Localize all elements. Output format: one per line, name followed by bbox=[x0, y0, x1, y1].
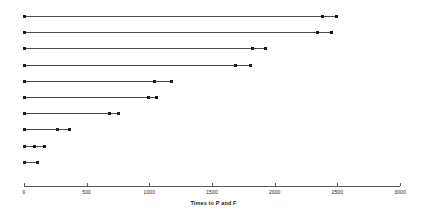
data-point bbox=[23, 80, 26, 83]
x-axis-title: Times to P and F bbox=[0, 200, 427, 206]
x-axis-tick-label: 500 bbox=[82, 189, 91, 195]
row-connector-line bbox=[24, 129, 70, 130]
x-axis-tick bbox=[337, 183, 338, 186]
data-point bbox=[335, 15, 338, 18]
x-axis-tick-label: 1000 bbox=[144, 189, 156, 195]
row-connector-line bbox=[24, 48, 266, 49]
data-point bbox=[321, 15, 324, 18]
data-point bbox=[36, 161, 39, 164]
data-point bbox=[316, 31, 319, 34]
row-connector-line bbox=[24, 32, 331, 33]
row-connector-line bbox=[24, 113, 118, 114]
x-axis-tick bbox=[400, 183, 401, 186]
data-row bbox=[0, 142, 427, 151]
x-axis-tick-label: 0 bbox=[23, 189, 26, 195]
data-point bbox=[147, 96, 150, 99]
x-axis-tick bbox=[275, 183, 276, 186]
data-point bbox=[43, 145, 46, 148]
data-point bbox=[23, 145, 26, 148]
data-row bbox=[0, 28, 427, 37]
data-point bbox=[117, 112, 120, 115]
x-axis-tick bbox=[24, 183, 25, 186]
data-point bbox=[23, 96, 26, 99]
data-row bbox=[0, 44, 427, 53]
data-point bbox=[23, 31, 26, 34]
data-point bbox=[23, 64, 26, 67]
row-connector-line bbox=[24, 81, 171, 82]
x-axis-tick-label: 2500 bbox=[332, 189, 344, 195]
data-point bbox=[170, 80, 173, 83]
data-point bbox=[108, 112, 111, 115]
data-row bbox=[0, 109, 427, 118]
row-connector-line bbox=[24, 16, 336, 17]
data-row bbox=[0, 61, 427, 70]
data-point bbox=[23, 128, 26, 131]
data-row bbox=[0, 12, 427, 21]
row-connector-line bbox=[24, 65, 250, 66]
x-axis-tick-label: 3000 bbox=[394, 189, 406, 195]
x-axis-line bbox=[24, 186, 400, 187]
data-point bbox=[234, 64, 237, 67]
data-point bbox=[251, 47, 254, 50]
data-row bbox=[0, 93, 427, 102]
data-row bbox=[0, 125, 427, 134]
data-point bbox=[33, 145, 36, 148]
data-point bbox=[155, 96, 158, 99]
x-axis-tick-label: 2000 bbox=[269, 189, 281, 195]
x-axis-tick bbox=[87, 183, 88, 186]
data-point bbox=[23, 47, 26, 50]
x-axis-tick-label: 1500 bbox=[206, 189, 218, 195]
data-point bbox=[264, 47, 267, 50]
data-point bbox=[249, 64, 252, 67]
data-point bbox=[330, 31, 333, 34]
data-point bbox=[153, 80, 156, 83]
data-row bbox=[0, 77, 427, 86]
row-connector-line bbox=[24, 97, 157, 98]
data-point bbox=[23, 15, 26, 18]
data-point bbox=[56, 128, 59, 131]
data-point bbox=[23, 112, 26, 115]
data-point bbox=[68, 128, 71, 131]
data-row bbox=[0, 158, 427, 167]
data-point bbox=[23, 161, 26, 164]
plot-area: 050010001500200025003000 bbox=[0, 0, 427, 217]
x-axis-tick bbox=[149, 183, 150, 186]
chart-container: 050010001500200025003000 Times to P and … bbox=[0, 0, 427, 217]
x-axis-tick bbox=[212, 183, 213, 186]
